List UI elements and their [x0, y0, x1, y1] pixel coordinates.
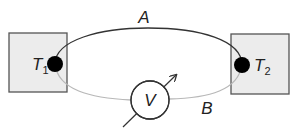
junction-t1-dot: [47, 56, 63, 72]
wire-a: [55, 28, 242, 65]
junction-t2-dot: [234, 57, 250, 73]
label-wire-a: A: [137, 8, 149, 27]
thermocouple-diagram: V T1 T2 A B: [0, 0, 297, 135]
label-wire-b: B: [201, 99, 212, 118]
voltmeter-label: V: [144, 91, 157, 110]
